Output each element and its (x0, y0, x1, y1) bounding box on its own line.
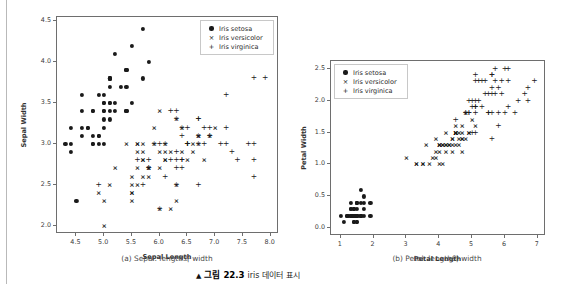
data-point-virginica: + (489, 135, 495, 143)
data-point-virginica: + (505, 65, 511, 73)
data-point-setosa (91, 134, 95, 138)
legend-row: +Iris virginica (339, 86, 402, 95)
data-point-versicolor: × (157, 108, 162, 114)
x-tick-label: 5.5 (126, 238, 136, 246)
x-tick-label: 7.5 (237, 238, 247, 246)
x-tick-mark (504, 235, 505, 238)
data-point-versicolor: × (151, 124, 156, 130)
data-point-setosa (368, 201, 372, 205)
data-point-virginica: + (223, 124, 229, 132)
x-tick-mark (270, 233, 271, 236)
data-point-setosa (141, 76, 145, 80)
data-point-virginica: + (223, 91, 229, 99)
data-point-virginica: + (156, 140, 162, 148)
data-point-versicolor: × (129, 173, 134, 179)
data-point-versicolor: × (443, 148, 448, 154)
data-point-virginica: + (251, 157, 257, 165)
legend-label: Iris versicolor (352, 78, 397, 86)
y-tick-mark (327, 163, 330, 164)
x-tick-label: 7 (535, 240, 539, 248)
data-point-versicolor: × (450, 148, 455, 154)
data-point-virginica: + (179, 157, 185, 165)
data-point-virginica: + (173, 107, 179, 115)
y-tick-label: 4.5 (30, 16, 51, 24)
data-point-setosa (124, 68, 128, 72)
data-point-virginica: + (201, 124, 207, 132)
data-point-versicolor: × (129, 190, 134, 196)
x-tick-label: 1 (338, 240, 342, 248)
data-point-virginica: + (495, 110, 501, 118)
data-point-virginica: + (515, 97, 521, 105)
data-point-setosa (124, 109, 128, 113)
data-point-setosa (102, 109, 106, 113)
y-tick-label: 0.0 (304, 223, 325, 231)
data-point-virginica: + (476, 78, 482, 86)
data-point-setosa (80, 109, 84, 113)
caption-description: iris 데이터 표시 (248, 269, 300, 280)
legend-row: Iris setosa (205, 24, 268, 33)
legend-dot (343, 70, 347, 74)
data-point-virginica: + (495, 122, 501, 130)
legend-row: ×Iris versicolor (339, 77, 402, 86)
data-point-versicolor: × (135, 165, 140, 171)
y-tick-label: 3.0 (30, 139, 51, 147)
data-point-virginica: + (472, 129, 478, 137)
data-point-setosa (80, 125, 84, 129)
data-point-virginica: + (162, 140, 168, 148)
circle-filled-icon (339, 70, 352, 74)
data-point-virginica: + (482, 78, 488, 86)
data-point-versicolor: × (113, 165, 118, 171)
plus-icon: + (339, 87, 352, 95)
data-point-versicolor: × (129, 182, 134, 188)
data-point-virginica: + (485, 110, 491, 118)
plus-icon: + (205, 43, 218, 51)
data-point-versicolor: × (146, 173, 151, 179)
legend-row: Iris setosa (339, 68, 402, 77)
data-point-setosa (130, 101, 134, 105)
data-point-setosa (102, 101, 106, 105)
y-tick-label: 2.5 (304, 64, 325, 72)
data-point-setosa (342, 220, 346, 224)
page-margin-rule (6, 0, 7, 284)
x-tick-label: 8.0 (265, 238, 275, 246)
x-tick-mark (159, 233, 160, 236)
data-point-setosa (119, 85, 123, 89)
data-point-virginica: + (95, 181, 101, 189)
data-point-virginica: + (151, 140, 157, 148)
data-point-setosa (97, 134, 101, 138)
data-point-setosa (97, 93, 101, 97)
legend-label: Iris virginica (352, 87, 392, 95)
legend-label: Iris virginica (218, 43, 258, 51)
data-point-virginica: + (195, 181, 201, 189)
data-point-virginica: + (531, 78, 537, 86)
y-tick-label: 4.0 (30, 57, 51, 65)
data-point-virginica: + (498, 78, 504, 86)
x-tick-label: 6.5 (181, 238, 191, 246)
data-point-setosa (69, 150, 73, 154)
data-point-virginica: + (476, 97, 482, 105)
data-point-virginica: + (162, 173, 168, 181)
data-point-virginica: + (201, 140, 207, 148)
data-point-versicolor: × (140, 141, 145, 147)
data-point-setosa (339, 213, 343, 217)
data-point-versicolor: × (101, 198, 106, 204)
x-tick-mark (471, 235, 472, 238)
data-point-versicolor: × (404, 155, 409, 161)
x-tick-label: 7.0 (209, 238, 219, 246)
data-point-setosa (108, 109, 112, 113)
data-point-versicolor: × (427, 161, 432, 167)
data-point-versicolor: × (201, 157, 206, 163)
data-point-setosa (91, 109, 95, 113)
data-point-setosa (358, 188, 362, 192)
data-point-setosa (108, 76, 112, 80)
y-tick-label: 2.0 (304, 96, 325, 104)
data-point-setosa (130, 44, 134, 48)
data-point-setosa (124, 85, 128, 89)
data-point-setosa (80, 134, 84, 138)
data-point-virginica: + (472, 110, 478, 118)
legend-dot (209, 26, 213, 30)
y-tick-mark (53, 20, 56, 21)
data-point-versicolor: × (157, 165, 162, 171)
figure-caption: ▲ 그림 22.3 iris 데이터 표시 (196, 268, 300, 280)
x-tick-label: 5 (469, 240, 473, 248)
